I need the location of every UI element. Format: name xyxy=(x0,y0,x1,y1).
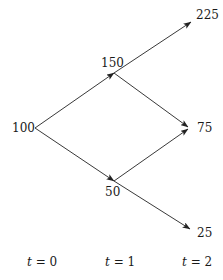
node-label-50: 50 xyxy=(105,185,120,199)
edge-n1u-to-n2ud xyxy=(114,73,188,127)
node-label-25: 25 xyxy=(197,226,212,240)
equals-sign: = xyxy=(110,255,128,269)
equals-sign: = xyxy=(187,255,205,269)
time-value: 2 xyxy=(205,255,213,269)
edge-n1d-to-n2dd xyxy=(114,181,190,229)
node-label-75: 75 xyxy=(197,121,212,135)
time-label-t2: t = 2 xyxy=(182,255,212,269)
equals-sign: = xyxy=(32,255,50,269)
node-label-225: 225 xyxy=(196,8,219,22)
time-axis: t = 0t = 1t = 2 xyxy=(27,255,212,269)
time-value: 0 xyxy=(50,255,58,269)
time-value: 1 xyxy=(128,255,136,269)
binomial-tree-diagram: 100150502257525 t = 0t = 1t = 2 xyxy=(0,0,223,280)
time-label-t1: t = 1 xyxy=(105,255,135,269)
node-label-150: 150 xyxy=(101,56,124,70)
edge-n1d-to-n2ud xyxy=(114,129,188,181)
time-label-t0: t = 0 xyxy=(27,255,57,269)
edge-n0-to-n1u xyxy=(35,73,114,128)
tree-nodes: 100150502257525 xyxy=(12,8,219,240)
edge-n1u-to-n2uu xyxy=(114,22,191,73)
node-label-100: 100 xyxy=(12,121,35,135)
edge-n0-to-n1d xyxy=(35,128,114,181)
